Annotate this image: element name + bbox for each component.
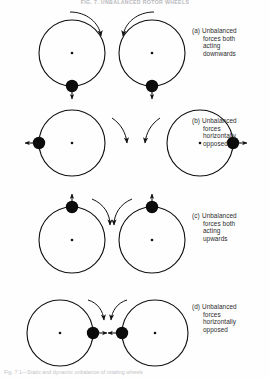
row-a-right-wheel bbox=[119, 20, 185, 99]
wheel-hub-dot bbox=[151, 52, 154, 55]
rotation-arrow-counterclockwise bbox=[123, 12, 154, 36]
caption-c-line-2: forces both bbox=[192, 220, 270, 228]
row-b-left-wheel bbox=[25, 110, 105, 176]
caption-d-line-1: Unbalanced bbox=[202, 303, 237, 310]
caption-a-line-3: acting bbox=[192, 42, 270, 50]
caption-a-tag: (a) bbox=[192, 27, 202, 35]
wheel-hub-dot bbox=[154, 332, 157, 335]
caption-b-line-1: Unbalanced bbox=[202, 117, 237, 124]
row-a-group bbox=[39, 12, 185, 99]
rotation-arrow-clockwise bbox=[88, 300, 104, 320]
caption-c: (c)Unbalanced forces both acting upwards bbox=[192, 212, 270, 242]
wheel-hub-dot bbox=[151, 239, 154, 242]
wheel-hub-dot bbox=[71, 142, 74, 145]
caption-c-tag: (c) bbox=[192, 212, 202, 220]
wheel-hub-dot bbox=[59, 332, 62, 335]
rotation-arrow-counterclockwise bbox=[111, 300, 127, 320]
caption-b-line-3: horizontally bbox=[192, 132, 270, 140]
caption-a: (a)Unbalanced forces both acting downwar… bbox=[192, 27, 270, 57]
rotation-arrow-counterclockwise bbox=[114, 199, 132, 225]
row-c-group bbox=[39, 194, 185, 273]
caption-d: (d)Unbalanced forces horizontally oppose… bbox=[192, 303, 270, 333]
rotation-arrow-clockwise bbox=[112, 118, 127, 143]
caption-b-line-4: opposed bbox=[192, 140, 270, 148]
row-c-right-wheel bbox=[119, 194, 185, 273]
figure-root: FIG. 7. UNBALANCED ROTOR WHEELS bbox=[0, 0, 270, 378]
caption-a-line-1: Unbalanced bbox=[202, 27, 237, 34]
rotation-arrow-clockwise bbox=[70, 12, 101, 36]
caption-b-tag: (b) bbox=[192, 117, 202, 125]
caption-d-line-4: opposed bbox=[192, 326, 270, 334]
caption-a-line-4: downwards bbox=[192, 50, 270, 58]
caption-b-line-2: forces bbox=[192, 125, 270, 133]
caption-c-line-3: acting bbox=[192, 227, 270, 235]
caption-b: (b)Unbalanced forces horizontally oppose… bbox=[192, 117, 270, 147]
row-c-left-wheel bbox=[39, 194, 105, 273]
rotation-arrow-counterclockwise bbox=[145, 118, 160, 143]
rotation-arrow-clockwise bbox=[92, 199, 110, 225]
row-d-left-wheel bbox=[27, 300, 107, 366]
caption-c-line-1: Unbalanced bbox=[202, 212, 237, 219]
caption-a-line-2: forces both bbox=[192, 35, 270, 43]
figure-bottom-caption: Fig. 7.1—Static and dynamic unbalance of… bbox=[4, 369, 204, 377]
wheel-hub-dot bbox=[71, 239, 74, 242]
wheel-hub-dot bbox=[71, 52, 74, 55]
row-a-left-wheel bbox=[39, 20, 105, 99]
caption-d-line-3: horizontally bbox=[192, 318, 270, 326]
row-d-right-wheel bbox=[108, 300, 188, 366]
caption-d-tag: (d) bbox=[192, 303, 202, 311]
caption-d-line-2: forces bbox=[192, 311, 270, 319]
caption-c-line-4: upwards bbox=[192, 235, 270, 243]
row-d-group bbox=[27, 300, 188, 366]
